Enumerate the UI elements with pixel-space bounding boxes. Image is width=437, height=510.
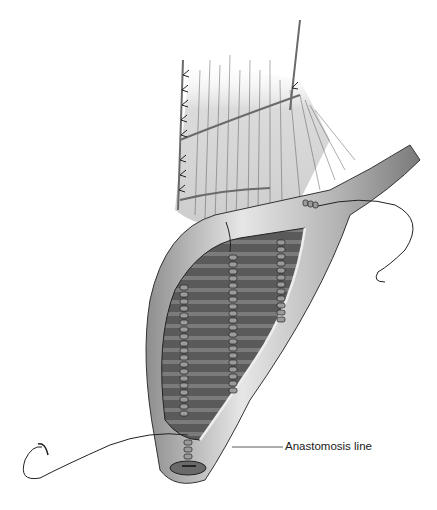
suture-row-end [184, 440, 192, 459]
anastomosis-line-label: Anastomosis line [285, 440, 372, 452]
bowel-end [170, 461, 206, 475]
anastomosis-illustration [0, 0, 437, 510]
